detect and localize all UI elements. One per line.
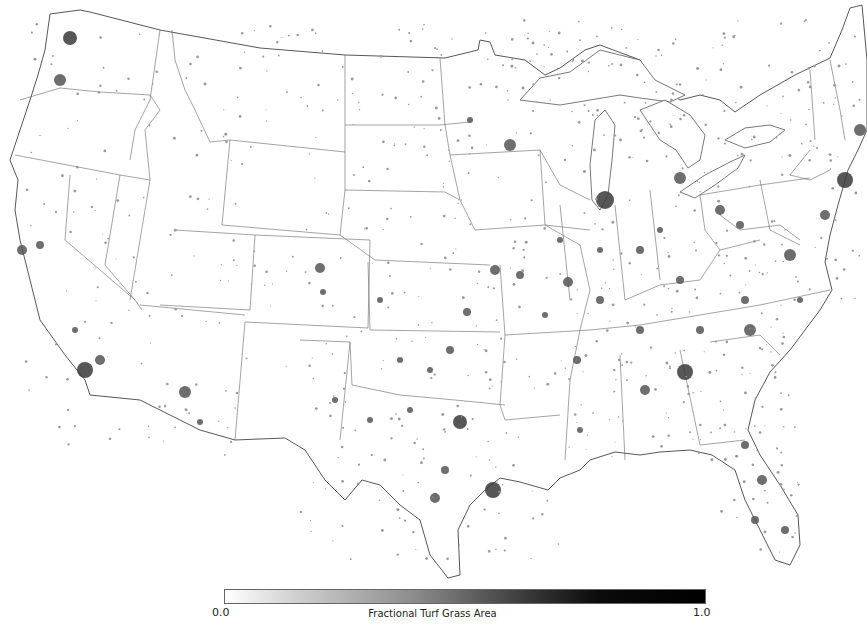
- turf-dot: [311, 29, 314, 32]
- legend-title: Fractional Turf Grass Area: [0, 607, 867, 620]
- turf-dot: [379, 500, 381, 502]
- turf-dot: [663, 285, 665, 287]
- turf-dot: [613, 269, 614, 270]
- turf-dot: [430, 377, 432, 379]
- turf-dot: [446, 557, 449, 560]
- turf-dot: [443, 183, 444, 184]
- turf-dot: [507, 99, 509, 101]
- turf-dot: [510, 65, 513, 68]
- turf-dot: [754, 425, 756, 427]
- turf-dot: [783, 426, 784, 427]
- turf-dot: [457, 203, 458, 204]
- turf-dot: [95, 267, 96, 268]
- turf-dot: [733, 499, 736, 502]
- turf-dot: [286, 366, 287, 367]
- turf-dot: [683, 349, 685, 351]
- turf-dot: [98, 91, 101, 94]
- turf-dot: [386, 168, 388, 170]
- turf-dot: [755, 264, 756, 265]
- turf-dot: [546, 500, 548, 502]
- turf-dot: [717, 186, 719, 188]
- turf-dot: [325, 488, 326, 489]
- urban-cluster: [854, 124, 866, 136]
- turf-dot: [103, 67, 105, 69]
- turf-dot: [741, 366, 743, 368]
- urban-cluster: [676, 276, 684, 284]
- turf-dot: [91, 206, 93, 208]
- turf-dot: [752, 463, 755, 466]
- turf-dot: [668, 417, 669, 418]
- turf-dot: [432, 497, 433, 498]
- urban-cluster: [674, 172, 686, 184]
- turf-dot: [58, 426, 61, 429]
- turf-dot: [449, 268, 451, 270]
- turf-dot: [763, 243, 765, 245]
- turf-dot: [852, 250, 854, 252]
- turf-dot: [143, 197, 145, 199]
- turf-dot: [575, 346, 576, 347]
- turf-dot: [637, 39, 638, 40]
- turf-dot: [669, 365, 671, 367]
- turf-dot: [780, 113, 781, 114]
- turf-dot: [826, 258, 828, 260]
- urban-cluster: [677, 364, 693, 380]
- turf-dot: [411, 340, 413, 342]
- turf-dot: [808, 159, 811, 162]
- turf-dot: [510, 267, 511, 268]
- turf-dot: [305, 271, 307, 273]
- turf-dot: [329, 415, 332, 418]
- turf-dot: [568, 447, 569, 448]
- turf-dot: [652, 435, 655, 438]
- turf-dot: [418, 296, 419, 297]
- turf-dot: [525, 241, 528, 244]
- turf-dot: [220, 280, 221, 281]
- urban-cluster: [463, 308, 471, 316]
- turf-dot: [332, 540, 333, 541]
- turf-dot: [228, 280, 229, 281]
- turf-dot: [699, 182, 700, 183]
- turf-dot: [30, 152, 32, 154]
- turf-dot: [541, 513, 543, 515]
- turf-dot: [643, 304, 645, 306]
- turf-dot: [139, 34, 141, 36]
- turf-dot: [601, 287, 602, 288]
- turf-dot: [723, 354, 726, 357]
- turf-dot: [671, 311, 673, 313]
- turf-dot: [197, 197, 200, 200]
- turf-dot: [522, 249, 524, 251]
- turf-dot: [146, 292, 149, 295]
- turf-dot: [351, 78, 354, 81]
- urban-cluster: [441, 466, 449, 474]
- turf-dot: [313, 378, 315, 380]
- turf-dot: [561, 360, 562, 361]
- turf-dot: [470, 475, 472, 477]
- turf-dot: [611, 63, 613, 65]
- turf-dot: [99, 85, 102, 88]
- turf-dot: [423, 128, 424, 129]
- turf-dot: [780, 392, 782, 394]
- turf-dot: [36, 23, 38, 25]
- turf-dot: [223, 109, 224, 110]
- turf-dot: [775, 260, 777, 262]
- urban-cluster: [95, 355, 105, 365]
- turf-dot: [557, 67, 558, 68]
- turf-dot: [843, 268, 846, 271]
- turf-dot: [530, 558, 531, 559]
- turf-dot: [269, 25, 271, 27]
- turf-dot: [84, 321, 86, 323]
- turf-dot: [625, 47, 627, 49]
- urban-cluster: [597, 247, 603, 253]
- turf-dot: [808, 67, 811, 70]
- turf-dot: [360, 330, 362, 332]
- turf-dot: [457, 139, 460, 142]
- turf-dot: [387, 306, 389, 308]
- turf-dot: [485, 349, 488, 352]
- turf-dot: [128, 215, 130, 217]
- turf-dot: [66, 290, 67, 291]
- turf-dot: [805, 19, 807, 21]
- turf-dot: [574, 413, 577, 416]
- turf-dot: [704, 351, 705, 352]
- turf-dot: [527, 37, 529, 39]
- turf-dot: [381, 529, 384, 532]
- urban-cluster: [797, 297, 803, 303]
